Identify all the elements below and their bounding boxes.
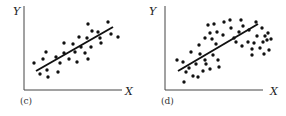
data-point (208, 67, 211, 70)
data-point (90, 29, 93, 32)
data-point (73, 50, 76, 53)
data-point (262, 52, 265, 55)
scatter-plot-d: Y X (d) (149, 5, 279, 106)
data-point (182, 80, 185, 83)
scatter-plot-c: Y X (c) (13, 5, 134, 106)
data-point (62, 41, 65, 44)
data-point (56, 70, 59, 73)
data-point (229, 26, 232, 29)
data-point (175, 58, 178, 61)
data-point (46, 75, 49, 78)
data-point (204, 62, 207, 65)
data-point (239, 18, 242, 21)
data-point (77, 35, 80, 38)
data-point (181, 60, 184, 63)
data-point (214, 42, 217, 45)
data-point (191, 74, 194, 77)
y-axis-label-d: Y (149, 5, 158, 18)
data-point (116, 35, 119, 38)
data-point (67, 57, 70, 60)
data-point (241, 24, 244, 27)
x-axis-label-c: X (124, 85, 134, 98)
data-point (189, 50, 192, 53)
data-point (250, 47, 253, 50)
data-point (86, 22, 89, 25)
data-point (203, 58, 206, 61)
data-point (212, 22, 215, 25)
data-point (44, 50, 47, 53)
data-point (83, 51, 86, 54)
data-point (269, 37, 272, 40)
data-point (98, 36, 101, 39)
data-point (263, 34, 266, 37)
data-point (187, 66, 190, 69)
data-point (221, 33, 224, 36)
data-point (99, 41, 102, 44)
data-point (261, 40, 264, 43)
data-point (228, 18, 231, 21)
data-point (210, 37, 213, 40)
data-point (197, 43, 200, 46)
data-point (250, 53, 253, 56)
data-point (265, 38, 268, 41)
data-point (211, 53, 214, 56)
data-point (217, 65, 220, 68)
data-point (201, 69, 204, 72)
data-point (254, 20, 257, 23)
data-point (198, 52, 201, 55)
regression-line-c (36, 27, 113, 71)
data-point (196, 75, 199, 78)
data-point (255, 34, 258, 37)
data-point (109, 32, 112, 35)
data-point (106, 20, 109, 23)
data-point (208, 31, 211, 34)
x-axis-label-d: X (269, 85, 279, 98)
data-point (234, 40, 237, 43)
data-point (252, 41, 255, 44)
data-point (85, 36, 88, 39)
data-point (267, 48, 270, 51)
data-point (86, 57, 89, 60)
data-point (194, 62, 197, 65)
data-point (258, 46, 261, 49)
data-point (260, 26, 263, 29)
data-point (38, 72, 41, 75)
data-point (58, 61, 61, 64)
axes-c (24, 6, 122, 90)
data-points-c (32, 20, 119, 78)
data-point (237, 30, 240, 33)
data-point (222, 20, 225, 23)
data-point (206, 23, 209, 26)
data-point (216, 58, 219, 61)
data-point (96, 30, 99, 33)
data-point (75, 60, 78, 63)
data-point (45, 68, 48, 71)
panel-label-d: (d) (161, 96, 174, 106)
data-point (41, 57, 44, 60)
figure: Y X (c) Y X (d) (0, 0, 286, 116)
data-point (215, 30, 218, 33)
data-points-d (175, 18, 272, 83)
data-point (240, 44, 243, 47)
data-point (71, 42, 74, 45)
data-point (32, 61, 35, 64)
panel-label-c: (c) (20, 96, 32, 106)
data-point (246, 40, 249, 43)
y-axis-label-c: Y (13, 5, 22, 18)
axes-d (165, 6, 263, 90)
data-point (266, 31, 269, 34)
data-point (184, 70, 187, 73)
data-point (203, 36, 206, 39)
data-point (89, 45, 92, 48)
